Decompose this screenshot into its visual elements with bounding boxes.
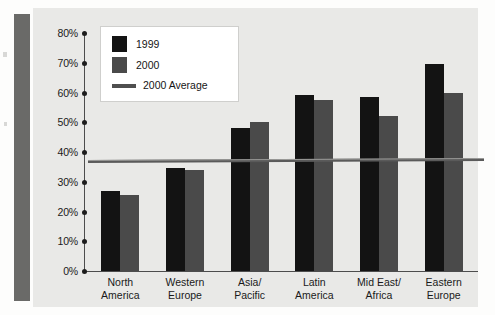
legend-item-2000-average: 2000 Average	[112, 79, 208, 91]
legend-line-marker-icon	[112, 82, 136, 88]
y-axis-tick-dot	[82, 269, 87, 274]
y-axis-tick-label: 20%	[34, 207, 78, 218]
y-axis-tick-label: 40%	[34, 147, 78, 158]
bar-2000-4	[379, 116, 398, 271]
bar-2000-2	[250, 122, 269, 271]
y-axis-tick-label: 50%	[34, 117, 78, 128]
bar-1999-1	[166, 168, 185, 271]
bar-1999-4	[360, 97, 379, 271]
scan-speckle	[4, 122, 7, 126]
legend-label-2000-average: 2000 Average	[143, 79, 208, 91]
y-axis-tick-label: 80%	[34, 28, 78, 39]
bar-1999-5	[425, 64, 444, 271]
category-label-5: EasternEurope	[399, 276, 489, 301]
bar-1999-0	[101, 191, 120, 271]
legend-label-2000: 2000	[136, 59, 159, 71]
bar-2000-0	[120, 195, 139, 271]
y-axis-tick-dot	[82, 120, 87, 125]
plot-area: 80%70%60%50%40%30%20%10%0% NorthAmericaW…	[33, 8, 478, 307]
bar-2000-1	[185, 170, 204, 271]
legend-item-1999: 1999	[112, 36, 159, 52]
y-axis-tick-dot	[82, 239, 87, 244]
y-axis-tick-dot	[82, 210, 87, 215]
bar-1999-2	[231, 128, 250, 271]
chart-legend: 1999 2000 2000 Average	[100, 26, 239, 102]
legend-swatch-2000-icon	[112, 57, 127, 73]
category-label-line: Europe	[399, 289, 489, 302]
y-axis-tick-label: 10%	[34, 236, 78, 247]
x-axis-line	[84, 271, 478, 272]
y-axis-tick-dot	[82, 31, 87, 36]
bar-1999-3	[295, 95, 314, 271]
chart-screenshot: 80%70%60%50%40%30%20%10%0% NorthAmericaW…	[0, 0, 495, 315]
bar-2000-5	[444, 93, 463, 272]
y-axis-tick-label: 70%	[34, 58, 78, 69]
y-axis-tick-label: 0%	[34, 266, 78, 277]
scan-speckle	[3, 52, 7, 57]
y-axis-tick-dot	[82, 150, 87, 155]
y-axis-tick-dot	[82, 91, 87, 96]
legend-swatch-1999-icon	[112, 36, 127, 52]
legend-item-2000: 2000	[112, 57, 159, 73]
bar-2000-3	[314, 100, 333, 271]
page-margin-rule	[14, 14, 30, 301]
y-axis-tick-dot	[82, 180, 87, 185]
chart-canvas: 80%70%60%50%40%30%20%10%0% NorthAmericaW…	[33, 8, 478, 307]
y-axis-tick-label: 30%	[34, 177, 78, 188]
y-axis-tick-dot	[82, 61, 87, 66]
y-axis-tick-label: 60%	[34, 88, 78, 99]
legend-label-1999: 1999	[136, 38, 159, 50]
category-label-line: Eastern	[399, 276, 489, 289]
